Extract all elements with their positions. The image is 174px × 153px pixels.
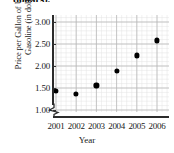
y-axis-tick-mark xyxy=(53,44,56,45)
y-axis-tick-label: 1.00 xyxy=(24,106,50,115)
y-axis-tick-mark xyxy=(53,88,56,89)
gridlines xyxy=(53,15,169,112)
y-axis-tick-label: 1.50 xyxy=(24,84,50,93)
y-axis-line xyxy=(52,15,54,105)
y-axis-tick-label: 2.00 xyxy=(24,62,50,71)
x-axis-tick-label: 2006 xyxy=(145,121,169,132)
y-axis-tick-mark xyxy=(53,110,56,111)
x-axis-tick-labels: 200120022003200420052006 xyxy=(0,121,174,133)
y-axis-tick-label: 2.50 xyxy=(24,40,50,49)
x-axis-title: Year xyxy=(0,135,174,145)
y-axis-tick-mark xyxy=(53,22,56,23)
plot-area xyxy=(53,15,169,112)
x-axis-line xyxy=(53,116,169,118)
y-axis-tick-label: 3.00 xyxy=(24,18,50,27)
scatter-chart: dollars). Price per Gallon of Unleaded G… xyxy=(0,0,174,153)
y-axis-tick-mark xyxy=(53,66,56,67)
